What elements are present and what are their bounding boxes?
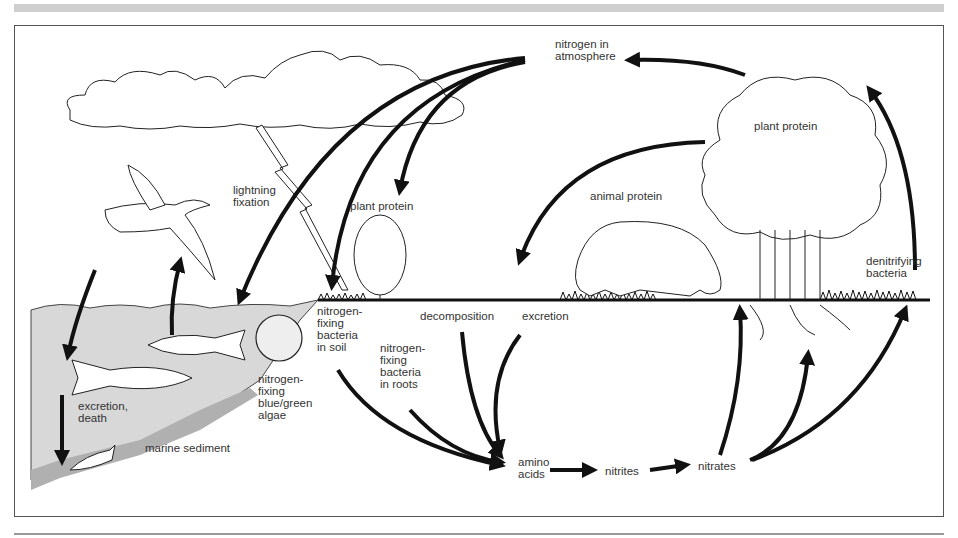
arrow-excretion-to-amino: [496, 335, 521, 450]
label-plant-protein-tree: plant protein: [754, 120, 817, 132]
label-decomposition: decomposition: [420, 310, 494, 322]
label-nitrites: nitrites: [605, 465, 639, 477]
arrow-nitrites-to-nitrates: [650, 465, 685, 470]
label-denitrifying-bacteria: denitrifying bacteria: [866, 255, 922, 279]
label-plant-protein-bush: plant protein: [350, 200, 413, 212]
label-n-fixing-algae: nitrogen- fixing blue/green algae: [258, 373, 312, 421]
label-n-fixing-bacteria-roots: nitrogen- fixing bacteria in roots: [380, 342, 425, 390]
arrow-nitrates-to-denitrify: [752, 310, 905, 460]
nitrogen-cycle-diagram: [0, 0, 958, 538]
bush: [354, 215, 406, 300]
label-nitrogen-in-atmosphere: nitrogen in atmosphere: [555, 38, 616, 62]
cloud: [67, 51, 464, 129]
arrow-nitrates-to-tree1: [720, 310, 741, 455]
label-excretion-death: excretion, death: [78, 400, 128, 424]
label-excretion: excretion: [522, 310, 569, 322]
label-animal-protein: animal protein: [590, 190, 662, 202]
label-n-fixing-bacteria-soil: nitrogen- fixing bacteria in soil: [317, 305, 362, 353]
algae-magnifier: [256, 315, 302, 361]
arrow-decomp-to-amino: [462, 332, 500, 455]
label-amino-acids: amino acids: [518, 456, 549, 480]
arrow-tree-to-atmosphere: [630, 60, 745, 75]
arrow-nitrates-to-roots: [750, 355, 808, 460]
label-marine-sediment: marine sediment: [145, 442, 230, 454]
label-nitrates: nitrates: [698, 460, 736, 472]
seabird: [105, 165, 215, 280]
label-lightning-fixation: lightning fixation: [233, 184, 276, 208]
cow: [575, 221, 721, 296]
